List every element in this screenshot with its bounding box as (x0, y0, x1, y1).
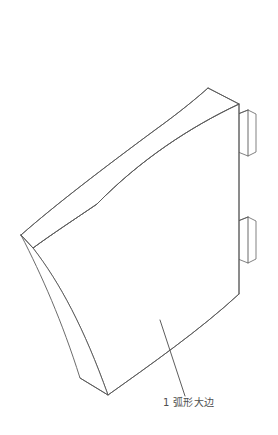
callout-label: 1 弧形大边 (163, 396, 214, 409)
technical-drawing-canvas (0, 0, 278, 435)
mounting-tab-upper-outline (238, 110, 256, 156)
mounting-tab-upper (238, 110, 256, 156)
mounting-tab-lower (238, 217, 256, 263)
mounting-tab-lower-outline (238, 217, 256, 263)
